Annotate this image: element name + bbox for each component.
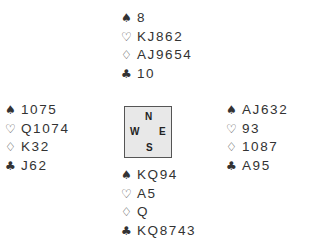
heart-icon: ♡	[121, 185, 137, 204]
diamond-icon: ♢	[5, 138, 21, 157]
west-hand: ♠1075 ♡Q1074 ♢K32 ♣J62	[5, 101, 70, 175]
club-icon: ♣	[226, 157, 242, 176]
east-clubs: ♣A95	[226, 157, 288, 176]
east-hand: ♠AJ632 ♡93 ♢1087 ♣A95	[226, 101, 288, 175]
north-diamonds: ♢AJ9654	[121, 46, 192, 65]
compass-north-label: N	[145, 111, 152, 122]
diamond-icon: ♢	[121, 203, 137, 222]
west-spades: ♠1075	[5, 101, 70, 120]
spade-icon: ♠	[226, 101, 242, 120]
club-icon: ♣	[5, 157, 21, 176]
north-spades: ♠8	[121, 9, 192, 28]
north-hearts: ♡KJ862	[121, 28, 192, 47]
club-icon: ♣	[121, 222, 137, 241]
compass-west-label: W	[130, 126, 139, 137]
west-clubs: ♣J62	[5, 157, 70, 176]
south-hearts: ♡A5	[121, 185, 196, 204]
west-hearts: ♡Q1074	[5, 120, 70, 139]
diamond-icon: ♢	[226, 138, 242, 157]
club-icon: ♣	[121, 65, 137, 84]
south-diamonds: ♢Q	[121, 203, 196, 222]
heart-icon: ♡	[226, 120, 242, 139]
south-hand: ♠KQ94 ♡A5 ♢Q ♣KQ8743	[121, 166, 196, 240]
compass-box: N W E S	[124, 106, 172, 158]
south-clubs: ♣KQ8743	[121, 222, 196, 241]
compass-east-label: E	[159, 126, 166, 137]
diamond-icon: ♢	[121, 46, 137, 65]
spade-icon: ♠	[121, 9, 137, 28]
south-spades: ♠KQ94	[121, 166, 196, 185]
spade-icon: ♠	[121, 166, 137, 185]
east-diamonds: ♢1087	[226, 138, 288, 157]
compass-south-label: S	[146, 142, 153, 153]
east-spades: ♠AJ632	[226, 101, 288, 120]
north-clubs: ♣10	[121, 65, 192, 84]
heart-icon: ♡	[121, 28, 137, 47]
east-hearts: ♡93	[226, 120, 288, 139]
north-hand: ♠8 ♡KJ862 ♢AJ9654 ♣10	[121, 9, 192, 83]
heart-icon: ♡	[5, 120, 21, 139]
west-diamonds: ♢K32	[5, 138, 70, 157]
spade-icon: ♠	[5, 101, 21, 120]
